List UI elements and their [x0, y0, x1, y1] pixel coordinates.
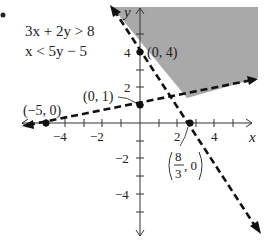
- x-tick-label: 2: [174, 129, 181, 144]
- y-axis-label: y: [122, 4, 131, 20]
- point-label-neg5-0: (−5, 0): [23, 103, 62, 119]
- point-label-0-4: (0, 4): [147, 45, 178, 61]
- svg-text:8: 8: [175, 149, 182, 164]
- y-tick-label: 4: [124, 45, 131, 60]
- leader-0-1: [118, 97, 136, 103]
- svg-text:3: 3: [175, 166, 182, 181]
- problem-marker: [1, 13, 6, 18]
- point-neg5-0: [43, 120, 50, 127]
- y-tick-label: −4: [115, 187, 129, 202]
- inequality-graph: 3x + 2y > 8 x < 5y − 5 y x −4 −2 2 4 4 2…: [0, 0, 264, 243]
- point-0-1: [137, 102, 144, 109]
- y-tick-label: 2: [124, 80, 131, 95]
- inequality-1: 3x + 2y > 8: [25, 23, 94, 39]
- y-tick-label: −2: [115, 151, 129, 166]
- inequality-2: x < 5y − 5: [25, 43, 87, 59]
- svg-text:, 0: , 0: [184, 158, 197, 173]
- x-axis-label: x: [248, 129, 256, 145]
- x-tick-label: −2: [90, 129, 104, 144]
- point-label-0-1: (0, 1): [83, 89, 114, 105]
- point-8-3-0: [187, 120, 194, 127]
- x-tick-label: −4: [53, 129, 67, 144]
- x-tick-label: 4: [211, 129, 218, 144]
- point-0-4: [137, 49, 144, 56]
